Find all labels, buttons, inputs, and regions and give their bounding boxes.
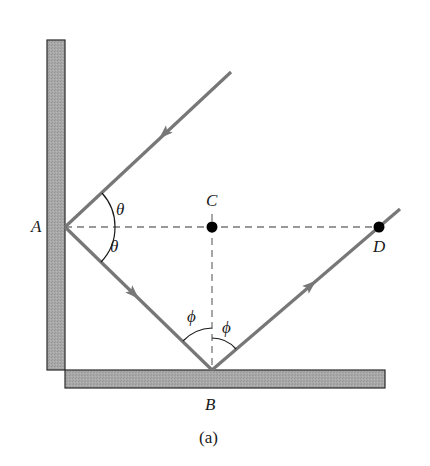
label-D: D [372, 237, 386, 256]
vertical-mirror [47, 40, 65, 370]
reflected-ray-A-B [65, 227, 212, 370]
reflected-ray-B-D [212, 209, 400, 370]
point-D-dot [374, 222, 385, 233]
angle-arc-phi-right [212, 338, 236, 349]
label-theta-upper: θ [116, 200, 124, 219]
point-C-dot [207, 222, 218, 233]
label-C: C [206, 191, 218, 210]
figure-caption: (a) [199, 428, 218, 447]
label-phi-left: ϕ [187, 307, 196, 326]
label-A: A [30, 217, 42, 236]
reflection-diagram: A B C D θ θ ϕ ϕ (a) [0, 0, 430, 466]
angle-arc-theta-upper [102, 193, 115, 227]
angle-arc-phi-left [183, 328, 212, 341]
label-B: B [205, 395, 216, 414]
label-theta-lower: θ [110, 237, 118, 256]
horizontal-mirror [65, 370, 385, 388]
label-phi-right: ϕ [222, 318, 231, 337]
